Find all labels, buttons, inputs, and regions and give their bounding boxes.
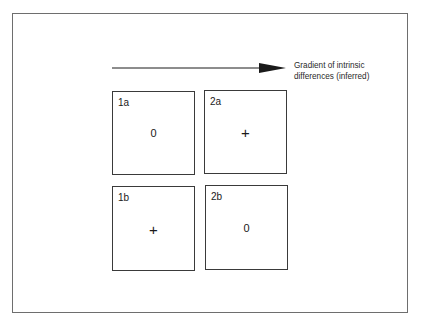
cell-label: 1a <box>118 97 129 108</box>
gradient-label-line2: differences (inferred) <box>294 71 369 82</box>
cell-1a: 1a 0 <box>112 91 195 175</box>
cell-value-plus: + <box>205 125 286 140</box>
cell-value-zero: 0 <box>206 222 287 234</box>
cell-label: 1b <box>118 192 129 203</box>
cell-label: 2b <box>211 191 222 202</box>
gradient-label: Gradient of intrinsic differences (infer… <box>294 60 369 82</box>
cell-2a: 2a + <box>204 90 287 174</box>
cell-value-plus: + <box>113 221 194 236</box>
cell-2b: 2b 0 <box>205 185 288 270</box>
cell-1b: 1b + <box>112 186 195 271</box>
cell-value-zero: 0 <box>113 127 194 139</box>
cell-label: 2a <box>210 96 221 107</box>
gradient-label-line1: Gradient of intrinsic <box>294 60 369 71</box>
